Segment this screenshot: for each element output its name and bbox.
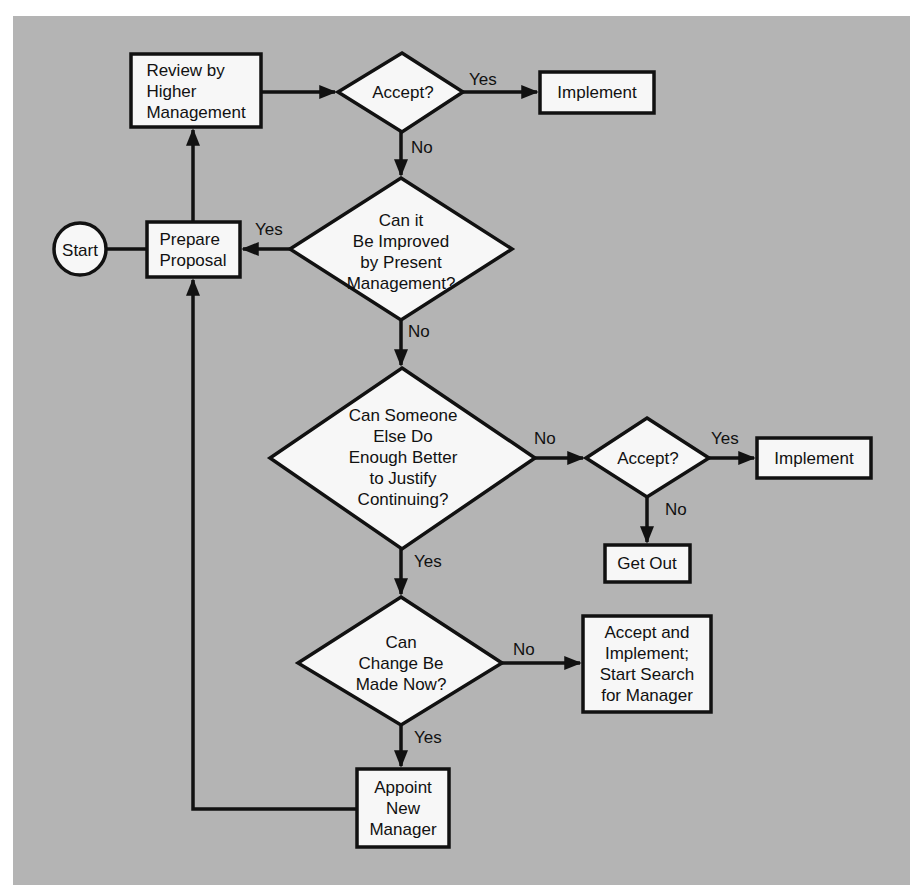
label-implement2: Implement [774, 448, 853, 469]
edge-label-accept1-yes: Yes [469, 70, 497, 90]
label-change: Can Change Be Made Now? [356, 632, 447, 695]
edge-label-accept2-yes: Yes [711, 429, 739, 449]
edge-label-someone-yes: Yes [414, 552, 442, 572]
label-getout: Get Out [617, 553, 677, 574]
edge-label-improve-yes: Yes [255, 220, 283, 240]
label-review: Review by Higher Management [146, 60, 245, 123]
edge-label-accept1-no: No [411, 138, 433, 158]
edge-label-accept2-no: No [665, 500, 687, 520]
edge-label-change-no: No [513, 640, 535, 660]
edge-label-someone-no: No [534, 429, 556, 449]
label-improve: Can it Be Improved by Present Management… [347, 210, 456, 294]
edge-label-change-yes: Yes [414, 728, 442, 748]
label-prepare: Prepare Proposal [159, 229, 226, 271]
label-accept2: Accept? [617, 448, 678, 469]
edge-label-improve-no: No [408, 322, 430, 342]
label-someone: Can Someone Else Do Enough Better to Jus… [349, 405, 458, 510]
label-appoint: Appoint New Manager [369, 777, 436, 840]
edge-appoint-prepare [193, 280, 357, 809]
label-start: Start [62, 240, 98, 261]
label-accept1: Accept? [372, 82, 433, 103]
label-acceptsearch: Accept and Implement; Start Search for M… [600, 622, 695, 706]
label-implement1: Implement [557, 82, 636, 103]
